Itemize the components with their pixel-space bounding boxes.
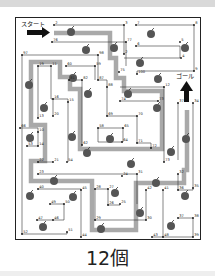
point-label: 10 <box>39 128 44 132</box>
apple-icon <box>82 44 90 54</box>
point-label: 4 <box>182 54 185 58</box>
point-label: 60 <box>67 62 72 66</box>
point-label: 36 <box>179 186 184 190</box>
point-label: 62 <box>83 141 88 145</box>
point-label: 8 <box>195 21 198 25</box>
point-label: 98 <box>99 51 104 55</box>
point-label: 37 <box>179 99 184 103</box>
point-label: 25 <box>121 200 126 204</box>
point-label: 20 <box>54 112 59 116</box>
point-label: 14 <box>39 142 44 146</box>
apple-icon <box>167 146 175 156</box>
apple-icon <box>181 190 189 200</box>
maze-board: スタート ゴール 237 <box>0 0 215 276</box>
point-label: 19 <box>39 62 44 66</box>
point-label: 41 <box>164 186 169 190</box>
point-label: 74 <box>121 97 126 101</box>
point-label: 45 <box>82 186 87 190</box>
point-label: 12 <box>165 83 170 87</box>
apple-icon <box>136 57 144 67</box>
point-label: 47 <box>38 216 43 220</box>
point-label: 87 <box>99 76 104 80</box>
point-label: 52 <box>23 230 28 234</box>
point-label: 43 <box>153 233 158 237</box>
answer-count: 12個 <box>0 243 215 270</box>
point-label: 42 <box>147 186 152 190</box>
apple-icon <box>181 42 189 52</box>
apple-icon <box>68 131 76 141</box>
point-label: 22 <box>39 158 44 162</box>
point-label: 72 <box>152 144 157 148</box>
point-label: 34 <box>194 99 199 103</box>
apple-icon <box>127 158 135 168</box>
apple-icon <box>152 177 160 187</box>
point-label: 30 <box>147 216 152 220</box>
point-label: 40 <box>39 185 44 189</box>
point-label: 38 <box>194 214 199 218</box>
point-label: 64 <box>123 138 128 142</box>
start-arrow-icon <box>27 27 50 38</box>
point-label: 24 <box>123 172 128 176</box>
point-label: 69 <box>108 112 113 116</box>
point-label: 54 <box>68 158 73 162</box>
point-label: 73 <box>165 158 170 162</box>
apple-icon <box>97 223 105 233</box>
point-label: 97 <box>23 51 28 55</box>
point-label: 35 <box>194 184 199 188</box>
apple-icon <box>26 132 34 142</box>
apple-icon <box>154 73 162 83</box>
start-label: スタート <box>21 20 45 27</box>
goal-label: ゴール <box>176 72 194 79</box>
point-label: 27 <box>109 185 114 189</box>
point-label: 65 <box>124 124 129 128</box>
point-label: 2 <box>55 21 57 25</box>
point-label: 76 <box>53 38 58 42</box>
point-label: 13 <box>39 114 44 118</box>
point-label: 29 <box>96 216 101 220</box>
point-label: 2 <box>125 50 127 54</box>
apple-icon <box>147 28 155 38</box>
bottom-bar <box>0 271 215 276</box>
point-label: 81 <box>70 76 75 80</box>
point-label: 53 <box>28 142 33 146</box>
apple-icon <box>67 26 75 36</box>
point-label: 71 <box>138 139 143 143</box>
point-label: 50 <box>65 200 70 204</box>
point-label: 7 <box>137 21 139 25</box>
point-label: 37 <box>179 214 184 218</box>
point-label: 100 <box>138 70 146 74</box>
point-label: 59 <box>96 62 101 66</box>
point-label: 58 <box>99 124 104 128</box>
point-label: 26 <box>109 201 114 205</box>
point-label: 44 <box>82 233 87 237</box>
point-label: 66 <box>21 124 26 128</box>
point-label: 77 <box>127 38 132 42</box>
point-label: 11 <box>52 62 57 66</box>
apple-icon <box>26 190 34 200</box>
point-label: 15 <box>69 98 74 102</box>
point-label: 3 <box>125 21 127 25</box>
point-label: 32 <box>179 170 184 174</box>
point-label: 46 <box>54 216 59 220</box>
apple-icon <box>39 221 47 231</box>
point-label: 31 <box>138 170 143 174</box>
apple-icon <box>50 175 58 185</box>
point-label: 28 <box>96 185 101 189</box>
point-label: 70 <box>138 112 143 116</box>
point-label: 21 <box>54 158 59 162</box>
point-label: 5 <box>181 38 183 42</box>
point-label: 39 <box>194 233 199 237</box>
apple-icon <box>84 88 92 98</box>
point-label: 88 <box>108 83 113 87</box>
point-label: 82 <box>83 76 88 80</box>
apples <box>25 26 190 233</box>
point-label: 49 <box>51 200 56 204</box>
apple-icon <box>69 191 77 201</box>
apple-icon <box>106 133 114 143</box>
point-label: 51 <box>68 228 73 232</box>
point-label: 16 <box>54 95 59 99</box>
point-label: 73 <box>159 97 164 101</box>
apple-icon <box>167 220 175 230</box>
point-label: 23 <box>39 170 44 174</box>
point-label: 48 <box>164 233 169 237</box>
